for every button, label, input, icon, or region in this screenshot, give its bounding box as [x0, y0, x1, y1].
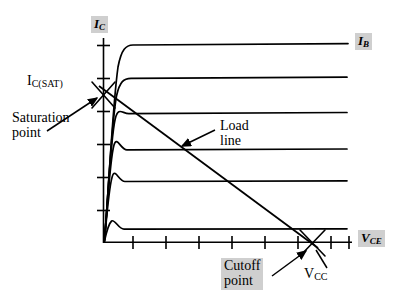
saturation-point-line1: Saturation	[12, 111, 70, 126]
vcc-sub: CC	[314, 271, 327, 282]
x-axis-label-text: V	[361, 230, 370, 245]
ib-label-sub: B	[363, 39, 369, 49]
cutoff-point-line2: point	[224, 274, 260, 289]
ic-sat-sub: C(SAT)	[32, 78, 63, 89]
cutoff-point-label: Cutoff point	[221, 258, 263, 290]
load-line-label: Load line	[220, 119, 249, 149]
characteristic-curve-5	[104, 77, 347, 242]
vcc-label: VCC	[304, 267, 327, 282]
characteristic-curve-2	[104, 173, 347, 242]
characteristic-curve-3	[104, 142, 347, 242]
x-axis-label-sub: CE	[370, 236, 382, 246]
dc-load-line	[99, 86, 318, 248]
cutoff-point-line1: Cutoff	[224, 259, 260, 274]
ic-sat-label: IC(SAT)	[27, 74, 63, 89]
characteristic-curve-figure: IC VCE IB IC(SAT) Saturation point Load …	[0, 0, 396, 297]
y-axis-label: IC	[91, 16, 108, 33]
saturation-point-line2: point	[12, 126, 70, 141]
ib-family-label: IB	[355, 33, 372, 50]
characteristic-curve-1	[104, 221, 347, 242]
saturation-point-label: Saturation point	[12, 111, 70, 141]
load-line-leader	[182, 130, 215, 146]
load-line-line1: Load	[220, 119, 249, 134]
load-line-line2: line	[220, 134, 249, 149]
x-axis-label: VCE	[358, 230, 385, 247]
cutoff-point-leader	[272, 251, 306, 276]
vcc-text: V	[304, 266, 314, 281]
plot-canvas	[0, 0, 396, 297]
y-axis-label-sub: C	[99, 22, 105, 32]
